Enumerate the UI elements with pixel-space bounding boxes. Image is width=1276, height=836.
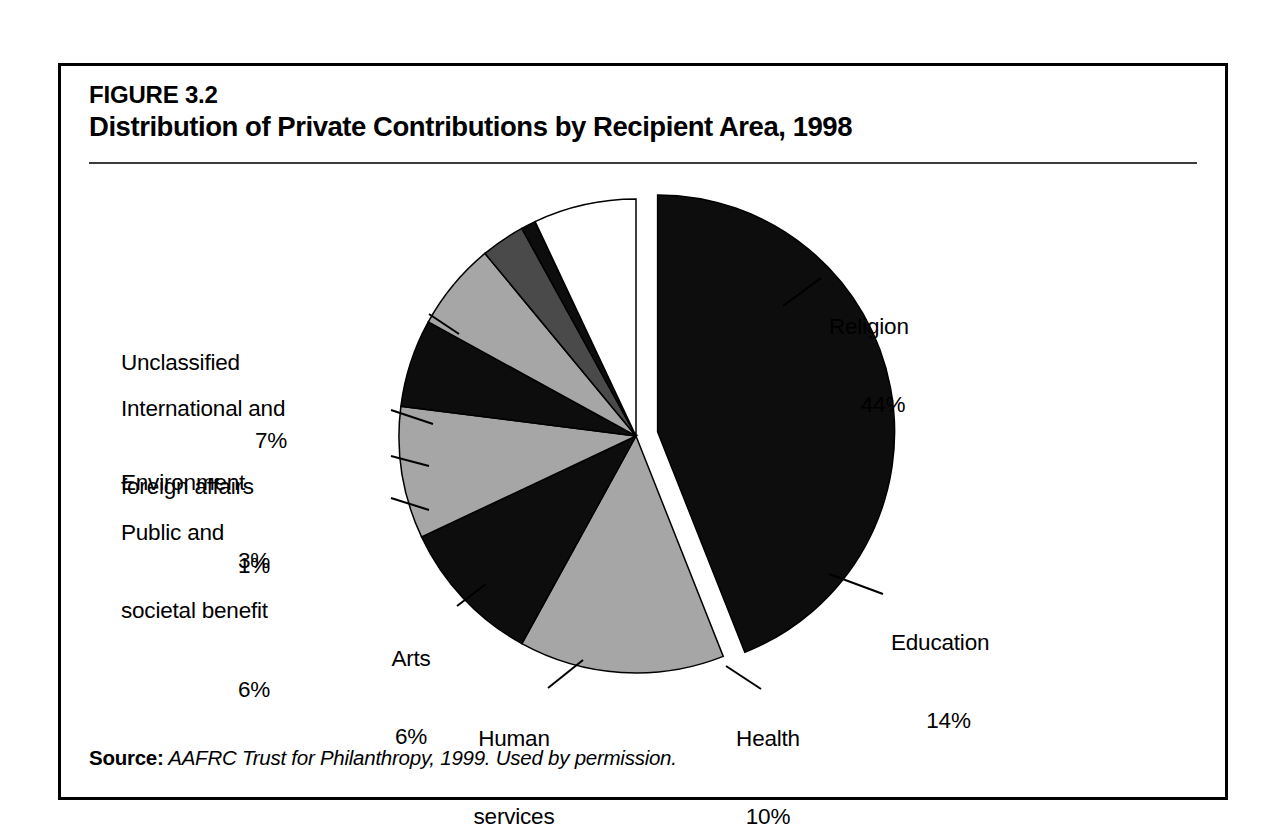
pie-label-religion-percent: 44% — [829, 392, 937, 418]
pie-label-unclassified-name: Unclassified — [121, 350, 421, 376]
pie-label-religion-name: Religion — [829, 314, 1029, 340]
pie-label-unclassified: Unclassified 7% — [121, 298, 421, 507]
pie-label-public-benefit-percent: 6% — [121, 677, 387, 703]
pie-label-health-name: Health — [713, 726, 823, 752]
pie-label-education: Education 14% — [891, 578, 1101, 787]
pie-label-international-percent: 1% — [121, 553, 387, 579]
source-text: AAFRC Trust for Philanthropy, 1999. Used… — [164, 746, 677, 769]
pie-slice-group — [399, 195, 895, 673]
source-line: Source: AAFRC Trust for Philanthropy, 19… — [89, 746, 677, 770]
pie-label-health: Health 10% — [713, 674, 823, 836]
pie-label-religion: Religion 44% — [829, 262, 1029, 471]
pie-label-human-services-name-line2: services — [444, 804, 584, 830]
pie-label-health-percent: 10% — [713, 804, 823, 830]
pie-chart: Religion 44% Education 14% Health 10% Hu… — [61, 66, 1225, 797]
pie-label-education-name: Education — [891, 630, 1101, 656]
pie-label-education-percent: 14% — [891, 708, 1006, 734]
pie-label-unclassified-percent: 7% — [121, 428, 421, 454]
source-label: Source: — [89, 746, 164, 769]
figure-box: FIGURE 3.2 Distribution of Private Contr… — [58, 63, 1228, 800]
